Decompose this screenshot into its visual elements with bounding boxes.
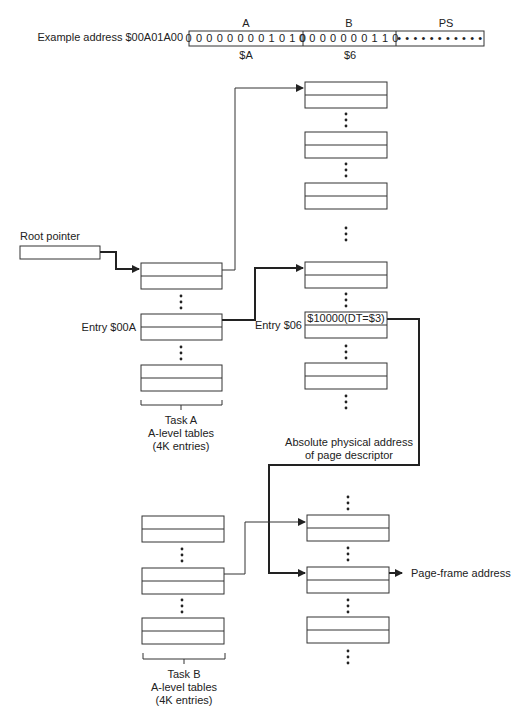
- task-b-caption-3: (4K entries): [156, 694, 213, 706]
- field-b-hex: $6: [344, 49, 356, 61]
- b-level-tables-bottom: [307, 496, 389, 665]
- task-a-bracket: [141, 400, 222, 405]
- entry-06-label: Entry $06: [255, 319, 302, 331]
- task-a-table: [141, 263, 222, 410]
- entry-00a-label: Entry $00A: [82, 321, 137, 333]
- task-b-caption-2: A-level tables: [151, 681, 218, 693]
- page-table-diagram: Example address $00A01A00 A B PS 0 0 0 0…: [0, 0, 524, 716]
- root-pointer-arrow: [100, 252, 139, 269]
- page-frame-label: Page-frame address: [411, 567, 511, 579]
- task-b-bracket: [143, 653, 225, 659]
- a-to-b-top-arrow: [222, 88, 303, 270]
- address-label: Example address $00A01A00: [37, 31, 183, 43]
- field-b-bits: 0 0 0 0 0 0 0 1 1 0: [299, 32, 399, 44]
- task-a-caption-1: Task A: [165, 414, 198, 426]
- example-address: Example address $00A01A00 A B PS 0 0 0 0…: [37, 17, 484, 61]
- field-ps-bits: • • • • • • • • • • •: [397, 32, 483, 44]
- entry-00a-arrow: [222, 268, 303, 320]
- task-a-caption-2: A-level tables: [148, 427, 215, 439]
- task-a-caption-3: (4K entries): [153, 440, 210, 452]
- field-ps-name: PS: [439, 17, 454, 29]
- descriptor-value: $10000(DT=$3): [307, 312, 384, 324]
- field-a-hex: $A: [239, 49, 253, 61]
- root-pointer-register: [20, 246, 100, 259]
- abs-address-line-1: Absolute physical address: [285, 436, 413, 448]
- task-b-table: [142, 516, 225, 664]
- root-pointer-label: Root pointer: [20, 230, 80, 242]
- field-b-name: B: [345, 17, 352, 29]
- field-a-bits: 0 0 0 0 0 0 0 0 1 0 1 0: [186, 32, 307, 44]
- field-a-name: A: [242, 17, 250, 29]
- b-level-tables-top: [305, 82, 387, 409]
- abs-address-line-2: of page descriptor: [305, 449, 393, 461]
- task-b-to-b-arrow: [224, 522, 305, 574]
- task-b-caption-1: Task B: [167, 668, 200, 680]
